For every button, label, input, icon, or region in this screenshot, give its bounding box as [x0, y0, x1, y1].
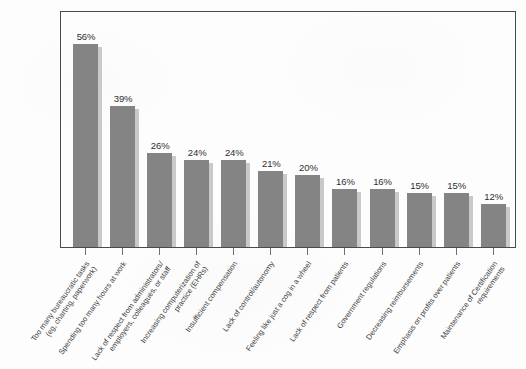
bar-value-label: 20%	[291, 162, 325, 173]
x-axis-label-line2: requirements	[446, 265, 507, 346]
bar-value-label: 15%	[403, 180, 437, 191]
x-tick-5	[233, 248, 234, 255]
x-tick-2	[122, 248, 123, 255]
x-tick-3	[159, 248, 160, 255]
bar-value-label: 39%	[106, 93, 140, 104]
x-tick-9	[382, 248, 383, 255]
bar-value-label: 26%	[143, 140, 177, 151]
bar-value-label: 21%	[254, 158, 288, 169]
x-tick-1	[85, 248, 86, 255]
x-tick-4	[196, 248, 197, 255]
x-tick-12	[493, 248, 494, 255]
x-tick-11	[456, 248, 457, 255]
bar-fill	[73, 44, 98, 247]
bar-value-label: 24%	[180, 147, 214, 158]
chart-page: 56%39%26%24%24%21%20%16%16%15%15%12% Too…	[0, 0, 526, 369]
x-tick-10	[419, 248, 420, 255]
bar-value-label: 24%	[217, 147, 251, 158]
x-axis-label-line1: Feeling like just a cog in a wheel	[245, 260, 314, 353]
bar-value-label: 56%	[69, 31, 103, 42]
